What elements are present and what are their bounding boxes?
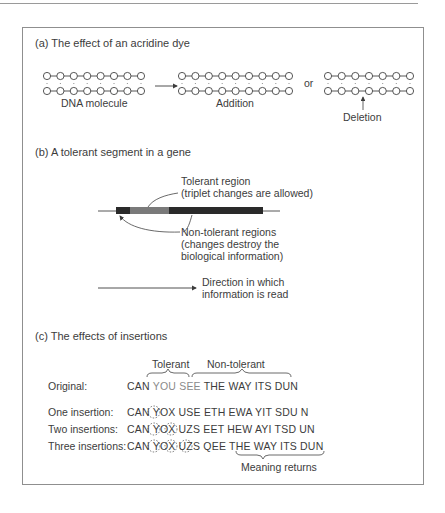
nontolerant-pointer-left-icon bbox=[120, 216, 180, 232]
section-a-title: (a) The effect of an acridine dye bbox=[35, 37, 190, 50]
addition-label: Addition bbox=[216, 97, 254, 110]
dna-molecule-icon bbox=[43, 72, 144, 94]
sequence-one-insertion: CAN YOX USE ETH EWA YIT SDU N bbox=[127, 406, 309, 419]
nontolerant-brace-label: Non-tolerant bbox=[207, 358, 265, 371]
seq-segment-start: CAN bbox=[127, 380, 153, 392]
seq-segment-nontolerant: THE WAY ITS DUN bbox=[201, 380, 298, 392]
tolerant-pointer-icon bbox=[148, 193, 178, 207]
tolerant-brace-label: Tolerant bbox=[152, 358, 189, 371]
sequence-original: CAN YOU SEE THE WAY ITS DUN bbox=[127, 380, 298, 393]
sequence-two-insertions: CAN YOX UZS EET HEW AYI TSD UN bbox=[127, 423, 315, 436]
section-c-title: (c) The effects of insertions bbox=[35, 330, 167, 343]
row-label-two-insertions: Two insertions: bbox=[48, 423, 118, 436]
sequence-three-insertions: CAN YOX UZS QEE THE WAY ITS DUN bbox=[127, 440, 323, 453]
tolerant-bar bbox=[130, 207, 169, 214]
seq-segment-tolerant: YOU SEE bbox=[153, 380, 201, 392]
meaning-returns-label: Meaning returns bbox=[241, 461, 317, 474]
seq-segment-restored: THE WAY ITS DUN bbox=[229, 440, 323, 452]
row-label-one-insertion: One insertion: bbox=[48, 406, 113, 419]
or-label: or bbox=[304, 77, 313, 90]
seq-segment-shifted: CAN YOX UZS QEE bbox=[127, 440, 229, 452]
nontolerant-bar-right bbox=[169, 207, 263, 214]
deletion-label: Deletion bbox=[343, 111, 382, 124]
direction-label-2: information is read bbox=[202, 288, 288, 301]
section-b-title: (b) A tolerant segment in a gene bbox=[35, 146, 191, 159]
row-label-three-insertions: Three insertions: bbox=[48, 440, 126, 453]
tolerant-region-note: (triplet changes are allowed) bbox=[181, 187, 313, 200]
row-label-original: Original: bbox=[48, 380, 87, 393]
dna-molecule-label: DNA molecule bbox=[61, 97, 128, 110]
nontolerant-bar-left bbox=[116, 207, 130, 214]
nontolerant-regions-note-2: biological information) bbox=[181, 250, 283, 263]
